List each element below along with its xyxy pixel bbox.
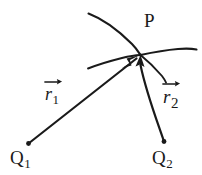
- upper-arc-right-branch: [141, 49, 197, 55]
- charge-q2-letter: Q: [152, 147, 166, 168]
- point-p-marker: [139, 53, 142, 56]
- vector-r2-label-stack: r2: [163, 86, 178, 112]
- vector-r2-label: r2: [163, 86, 178, 112]
- upper-arc-through-p: [89, 14, 141, 56]
- vector-r1-letter: r: [45, 84, 52, 104]
- charge-q2-label: Q2: [152, 148, 173, 170]
- vector-r1-label: r1: [45, 84, 59, 108]
- charge-q2-subscript: 2: [166, 156, 173, 171]
- vector-r2-shaft: [141, 65, 165, 142]
- vector-diagram-figure: P Q1 Q2 r1 r2: [0, 0, 202, 175]
- charge-q1-point: [26, 141, 31, 146]
- vector-r1-subscript: 1: [52, 92, 59, 107]
- charge-q2-point: [162, 139, 167, 144]
- charge-q1-label: Q1: [10, 148, 31, 170]
- point-p-label: P: [144, 11, 155, 30]
- vector-r1-label-stack: r1: [45, 84, 59, 108]
- charge-q1-subscript: 1: [24, 156, 31, 171]
- charge-q1-letter: Q: [10, 147, 24, 168]
- vector-r2-subscript: 2: [170, 95, 178, 111]
